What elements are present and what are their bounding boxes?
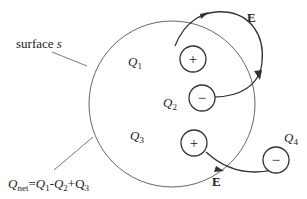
field-arrow-icon [254,70,262,80]
label-q3: Q3 [130,128,144,145]
net-charge-formula: Qnet=Q1-Q2+Q3 [8,176,90,193]
field-arrow-icon [200,12,209,19]
charge-q2: − [189,85,215,111]
label-q4: Q4 [284,130,298,147]
field-label-bottom: E [212,174,221,189]
minus-sign: − [198,90,206,106]
charge-q4: − [263,147,289,173]
surface-leader-line [52,52,87,66]
label-q2: Q2 [163,95,177,112]
field-arrow-icon [214,166,224,172]
surface-label: surface s [16,36,62,51]
minus-sign: − [272,152,280,168]
charge-q1: + [180,46,206,72]
plus-sign: + [190,135,198,151]
field-label-top: E [247,10,256,25]
net-charge-leader-line [54,137,93,170]
charge-q3: + [181,130,207,156]
label-q1: Q1 [128,54,142,71]
plus-sign: + [189,51,197,67]
gauss-law-diagram: + − + − Q1 Q2 Q3 Q4 E E surface s Qnet=Q… [0,0,307,199]
